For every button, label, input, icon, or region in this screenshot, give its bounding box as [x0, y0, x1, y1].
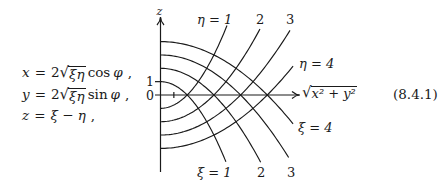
- label-xi-1: ξ = 1: [197, 165, 232, 180]
- label-eta-1: η = 1: [197, 12, 232, 27]
- z-axis-label: z: [156, 5, 163, 18]
- axes: [155, 17, 300, 172]
- eta-curve-1: [161, 26, 227, 109]
- parabolic-coordinates-diagram: z 1 0 η = 1 2 3 η = 4 ξ = 4 ξ = 1 2 3: [0, 0, 447, 187]
- rho-axis-label: √ x² + y²: [302, 84, 357, 101]
- xi-curve-1: [161, 82, 226, 162]
- xi-curve-2: [161, 68, 261, 162]
- label-xi-2: 2: [257, 165, 265, 180]
- square-root: √ x² + y²: [302, 84, 357, 101]
- equation-number: (8.4.1): [393, 86, 438, 102]
- label-xi-3: 3: [287, 165, 295, 180]
- radicand: x² + y²: [311, 86, 357, 101]
- label-eta-4: η = 4: [299, 56, 334, 71]
- label-eta-2: 2: [256, 12, 264, 27]
- label-eta-3: 3: [286, 12, 294, 27]
- tick-label-zero: 0: [146, 88, 154, 103]
- coordinate-curves: [161, 26, 294, 163]
- label-xi-4: ξ = 4: [298, 120, 333, 135]
